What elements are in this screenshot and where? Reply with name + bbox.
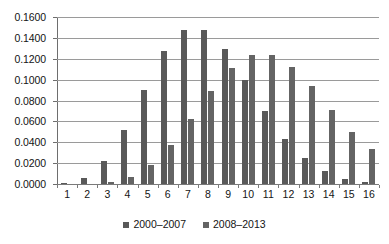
bar-2000-2007-cat-15 — [342, 179, 348, 184]
x-axis-tick-label-9: 9 — [218, 188, 238, 200]
x-axis-tick-label-10: 10 — [238, 188, 258, 200]
bar-2000-2007-cat-13 — [302, 158, 308, 184]
x-axis-tick-label-4: 4 — [117, 188, 137, 200]
x-axis-labels: 12345678910111213141516 — [57, 188, 379, 206]
bar-2000-2007-cat-7 — [181, 30, 187, 184]
legend-swatch-2008-2013 — [203, 222, 209, 228]
x-axis-tick — [258, 185, 259, 188]
y-axis-tick-label: 0.1400 — [14, 33, 46, 44]
bar-2008-2013-cat-3 — [108, 182, 114, 184]
gridline — [57, 38, 379, 39]
gridline — [57, 59, 379, 60]
y-axis-tick-label: 0.1000 — [14, 75, 46, 86]
gridline — [57, 101, 379, 102]
x-axis-tick-label-15: 15 — [339, 188, 359, 200]
bar-2008-2013-cat-14 — [329, 110, 335, 184]
bar-2000-2007-cat-14 — [322, 171, 328, 184]
bar-2000-2007-cat-9 — [222, 49, 228, 184]
x-axis-tick — [198, 185, 199, 188]
bar-2008-2013-cat-12 — [289, 67, 295, 184]
y-axis-labels: 0.16000.14000.12000.10000.08000.06000.04… — [0, 0, 53, 244]
bar-2000-2007-cat-8 — [201, 30, 207, 184]
bar-2008-2013-cat-4 — [128, 177, 134, 184]
x-axis-tick-label-6: 6 — [158, 188, 178, 200]
y-axis-tick-label: 0.0200 — [14, 158, 46, 169]
x-axis-tick — [158, 185, 159, 188]
x-axis-tick — [278, 185, 279, 188]
bar-2008-2013-cat-6 — [168, 145, 174, 184]
bar-2008-2013-cat-11 — [269, 55, 275, 184]
gridline — [57, 80, 379, 81]
legend-item-2000-2007[interactable]: 2000–2007 — [123, 219, 186, 230]
bar-2008-2013-cat-15 — [349, 132, 355, 184]
bar-2008-2013-cat-5 — [148, 165, 154, 184]
bar-chart: 0.16000.14000.12000.10000.08000.06000.04… — [0, 0, 389, 244]
gridline — [57, 17, 379, 18]
x-axis-tick — [138, 185, 139, 188]
x-axis-tick — [299, 185, 300, 188]
legend-item-2008-2013[interactable]: 2008–2013 — [203, 219, 266, 230]
bar-2000-2007-cat-6 — [161, 51, 167, 184]
x-axis-tick-label-12: 12 — [278, 188, 298, 200]
x-axis-tick-label-2: 2 — [77, 188, 97, 200]
x-axis-tick — [117, 185, 118, 188]
plot-area — [57, 17, 379, 184]
y-axis-tick-label: 0.1600 — [14, 12, 46, 23]
bar-2008-2013-cat-8 — [208, 91, 214, 184]
bar-2008-2013-cat-16 — [369, 149, 375, 184]
bar-2000-2007-cat-2 — [81, 178, 87, 184]
x-axis-tick — [238, 185, 239, 188]
x-axis-tick-label-7: 7 — [178, 188, 198, 200]
y-axis-tick-label: 0.0600 — [14, 116, 46, 127]
x-axis-tick — [178, 185, 179, 188]
bar-2008-2013-cat-9 — [229, 68, 235, 184]
bar-2000-2007-cat-16 — [362, 182, 368, 184]
x-axis-tick-label-13: 13 — [299, 188, 319, 200]
x-axis-tick-label-14: 14 — [319, 188, 339, 200]
y-axis-tick-label: 0.1200 — [14, 54, 46, 65]
x-axis-tick-label-1: 1 — [57, 188, 77, 200]
legend-label-2000-2007: 2000–2007 — [133, 219, 186, 230]
bar-2000-2007-cat-10 — [242, 80, 248, 184]
x-axis-tick — [359, 185, 360, 188]
y-axis-tick-label: 0.0400 — [14, 137, 46, 148]
x-axis-tick-label-8: 8 — [198, 188, 218, 200]
x-axis-tick — [379, 185, 380, 188]
bar-2000-2007-cat-12 — [282, 139, 288, 184]
x-axis-tick — [319, 185, 320, 188]
bar-2000-2007-cat-3 — [101, 161, 107, 184]
x-axis-tick — [339, 185, 340, 188]
y-axis-tick-label: 0.0800 — [14, 96, 46, 107]
bar-2000-2007-cat-5 — [141, 90, 147, 184]
bar-2008-2013-cat-7 — [188, 119, 194, 184]
y-axis-tick-label: 0.0000 — [14, 179, 46, 190]
x-axis-tick — [77, 185, 78, 188]
bar-2000-2007-cat-4 — [121, 130, 127, 184]
x-axis-tick — [218, 185, 219, 188]
bar-2008-2013-cat-10 — [249, 55, 255, 184]
x-axis-tick — [97, 185, 98, 188]
x-axis-tick-label-11: 11 — [258, 188, 278, 200]
x-axis-tick-label-5: 5 — [138, 188, 158, 200]
legend-label-2008-2013: 2008–2013 — [213, 219, 266, 230]
bar-2008-2013-cat-13 — [309, 86, 315, 184]
x-axis-tick — [57, 185, 58, 188]
x-axis-tick-label-16: 16 — [359, 188, 379, 200]
bar-2000-2007-cat-11 — [262, 111, 268, 184]
chart-legend: 2000–2007 2008–2013 — [0, 219, 389, 230]
legend-swatch-2000-2007 — [123, 222, 129, 228]
x-axis-tick-label-3: 3 — [97, 188, 117, 200]
bar-2000-2007-cat-1 — [61, 183, 67, 184]
